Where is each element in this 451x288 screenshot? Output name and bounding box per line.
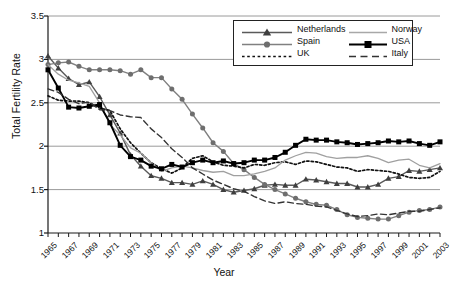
legend-key-uk bbox=[239, 48, 297, 59]
legend-label-netherlands: Netherlands bbox=[297, 24, 346, 35]
legend-key-usa bbox=[346, 36, 392, 47]
chart-legend: Netherlands Norway Spain USA UK Italy bbox=[233, 20, 413, 66]
legend-label-uk: UK bbox=[297, 48, 346, 59]
legend-key-netherlands bbox=[239, 24, 297, 35]
legend-label-usa: USA bbox=[392, 36, 423, 47]
legend-key-norway bbox=[346, 24, 392, 35]
x-axis-title: Year bbox=[0, 266, 448, 278]
legend-key-spain bbox=[239, 36, 297, 47]
legend-label-norway: Norway bbox=[392, 24, 423, 35]
y-axis-title: Total Fertility Rate bbox=[10, 36, 22, 156]
legend-label-italy: Italy bbox=[392, 48, 423, 59]
legend-key-italy bbox=[346, 48, 392, 59]
legend-label-spain: Spain bbox=[297, 36, 346, 47]
